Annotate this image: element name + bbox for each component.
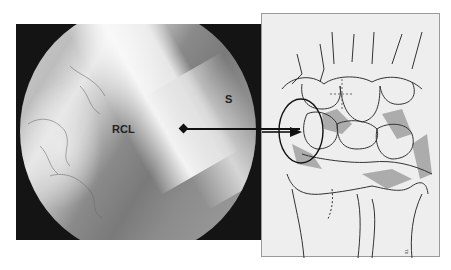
wrist-anatomy-drawing: ILL	[261, 13, 440, 257]
label-rcl: RCL	[112, 123, 135, 135]
label-s: S	[225, 93, 232, 105]
arthroscope-view-circle	[20, 24, 256, 240]
leader-line	[183, 128, 300, 130]
wrist-bones-illustration: ILL	[262, 14, 441, 258]
illustrator-signature: ILL	[404, 248, 409, 254]
arthroscopic-photo: RCL S	[16, 24, 262, 240]
